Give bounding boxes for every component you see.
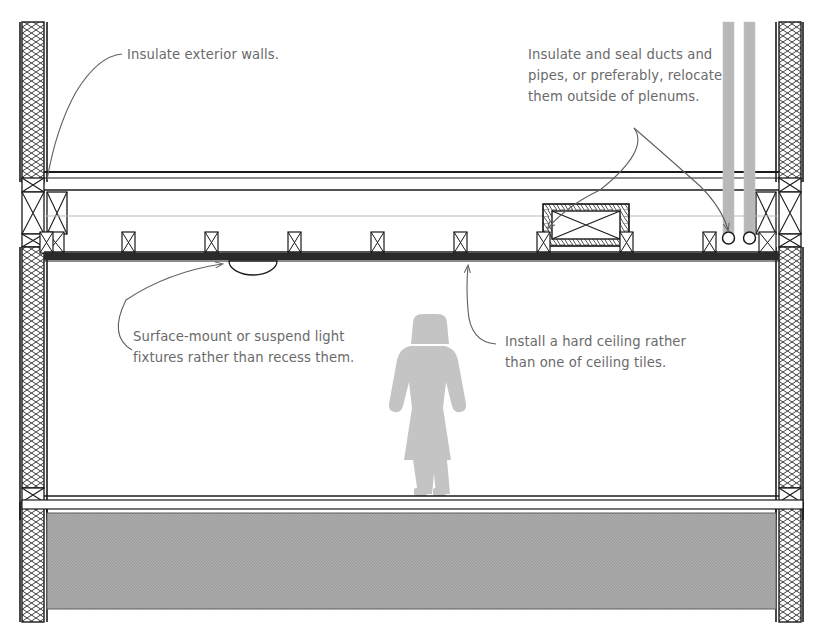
lower-floor-slab [22, 496, 803, 609]
roof-deck [44, 172, 779, 190]
hard-ceiling-assembly [40, 232, 779, 261]
leader-pipes [634, 128, 728, 230]
annotation-hard-ceiling: Install a hard ceiling rather than one o… [505, 331, 730, 373]
ceiling-bearing-right [759, 232, 776, 253]
human-figure-scale-reference [389, 314, 466, 496]
surface-mount-dome-light [229, 261, 277, 275]
insulated-rectangular-duct [543, 204, 629, 246]
wall-studs-plenum-left [22, 192, 67, 234]
diagram-canvas: Insulate exterior walls. Insulate and se… [0, 0, 823, 641]
wall-studs-plenum-right [756, 192, 801, 234]
wall-blocking-upper-left [22, 178, 44, 192]
leader-ceiling [467, 266, 496, 344]
wall-blocking-lower-right [779, 234, 801, 247]
leader-insulate-walls [47, 54, 122, 180]
annotation-insulate-walls: Insulate exterior walls. [127, 44, 387, 65]
annotation-light-fixtures: Surface-mount or suspend light fixtures … [133, 326, 383, 368]
wall-blocking-upper-right [779, 178, 801, 192]
annotation-insulate-ducts: Insulate and seal ducts and pipes, or pr… [528, 44, 748, 107]
